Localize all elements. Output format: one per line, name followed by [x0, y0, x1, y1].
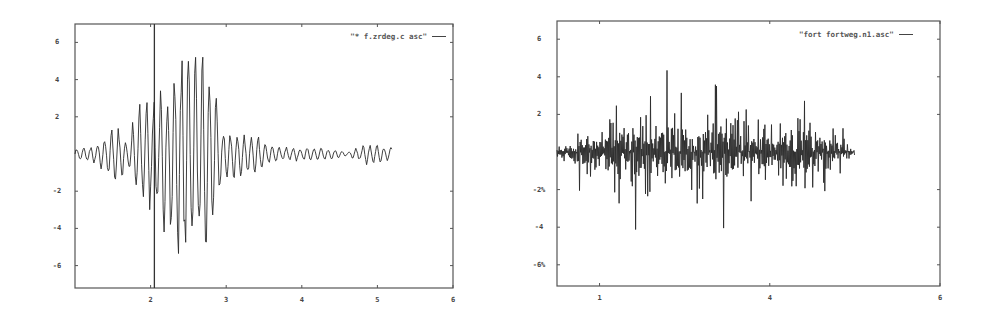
y-tick-label: 6 — [537, 35, 541, 43]
y-tick-label: -2% — [533, 186, 546, 194]
y-tick-label: -4 — [535, 223, 543, 231]
y-tick-label: -6% — [533, 261, 546, 269]
y-tick-label: 4 — [537, 73, 541, 81]
legend-label: "fort fortweg.n1.asc" — [799, 30, 894, 39]
chart-right-legend: "fort fortweg.n1.asc" — [799, 30, 913, 39]
y-tick-label: 2 — [537, 110, 541, 118]
chart-right: "fort fortweg.n1.asc" 642-2%-4-6%146 — [0, 0, 984, 319]
waveform-line — [557, 70, 855, 229]
x-tick-label: 1 — [597, 294, 601, 302]
chart-right-plot-area — [0, 0, 984, 319]
legend-line-sample — [899, 34, 913, 35]
x-tick-label: 4 — [768, 294, 772, 302]
x-tick-label: 6 — [938, 294, 942, 302]
